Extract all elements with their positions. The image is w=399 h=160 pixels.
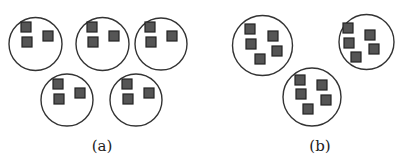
- item-square: [351, 52, 361, 62]
- item-square: [54, 94, 64, 104]
- item-square: [122, 79, 132, 89]
- item-square: [123, 94, 133, 104]
- item-square: [167, 31, 177, 41]
- item-square: [268, 31, 278, 41]
- item-square: [144, 88, 154, 98]
- item-square: [245, 24, 255, 34]
- item-square: [343, 23, 353, 33]
- diagram-svg: (a)(b): [0, 0, 399, 160]
- item-square: [53, 79, 63, 89]
- item-square: [344, 38, 354, 48]
- item-square: [255, 54, 265, 64]
- item-square: [296, 89, 306, 99]
- item-square: [295, 75, 305, 85]
- panel-a: (a): [9, 18, 187, 156]
- group-circle: [233, 16, 293, 76]
- panel-label: (b): [309, 137, 330, 155]
- panel-label: (a): [92, 137, 113, 155]
- item-square: [246, 39, 256, 49]
- item-square: [87, 22, 97, 32]
- item-square: [145, 22, 155, 32]
- item-square: [369, 44, 379, 54]
- item-square: [272, 46, 282, 56]
- group-circle: [110, 74, 162, 126]
- item-square: [88, 37, 98, 47]
- item-square: [109, 31, 119, 41]
- group-circle: [41, 74, 93, 126]
- item-square: [22, 37, 32, 47]
- item-square: [365, 30, 375, 40]
- item-square: [75, 88, 85, 98]
- group-circle: [135, 18, 187, 70]
- item-square: [303, 104, 313, 114]
- item-square: [317, 80, 327, 90]
- diagram-figure: (a)(b) (a) (b): [0, 0, 399, 160]
- item-square: [321, 95, 331, 105]
- item-square: [21, 22, 31, 32]
- panel-b: (b): [233, 15, 395, 156]
- group-circle: [76, 18, 129, 71]
- item-square: [146, 37, 156, 47]
- item-square: [43, 31, 53, 41]
- group-circle: [9, 18, 62, 71]
- group-circle: [283, 68, 341, 126]
